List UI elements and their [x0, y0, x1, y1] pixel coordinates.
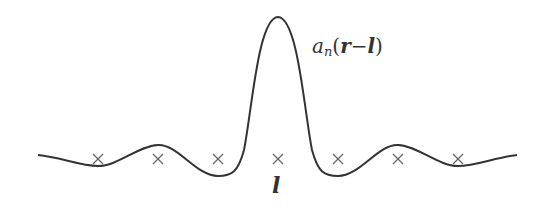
- function-label: an(r−l): [312, 34, 383, 59]
- cross-icon: [453, 154, 463, 164]
- cross-icon: [153, 154, 163, 164]
- function-symbol: a: [312, 34, 324, 58]
- cross-icon: [273, 154, 283, 164]
- lattice-vector: l: [367, 34, 375, 58]
- wannier-curve: [38, 17, 517, 176]
- lattice-site-markers: [93, 154, 463, 164]
- minus-sign: −: [351, 34, 368, 58]
- center-site-label: l: [272, 172, 280, 198]
- position-vector: r: [340, 34, 351, 58]
- close-paren: ): [375, 34, 383, 58]
- cross-icon: [333, 154, 343, 164]
- cross-icon: [393, 154, 403, 164]
- cross-icon: [213, 154, 223, 164]
- cross-icon: [93, 154, 103, 164]
- open-paren: (: [332, 34, 340, 58]
